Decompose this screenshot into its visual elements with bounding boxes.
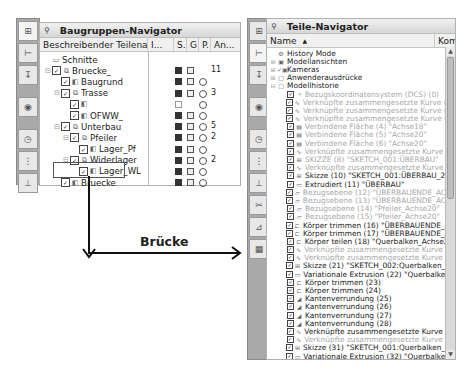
column-p[interactable]: P. — [199, 38, 211, 51]
feature-checkbox[interactable]: ✓ — [286, 271, 293, 278]
feature-checkbox[interactable]: ✓ — [287, 164, 294, 171]
feature-checkbox[interactable]: ✓ — [287, 213, 294, 220]
expander-icon[interactable]: ⊞ — [269, 66, 277, 73]
system-materials-icon[interactable]: ⋮ — [18, 151, 38, 171]
graphics-status-icon — [187, 179, 194, 186]
feature-checkbox[interactable]: ✓ — [286, 107, 293, 114]
feature-checkbox[interactable]: ✓ — [286, 222, 293, 229]
tree-row[interactable]: ▭Schnitte — [40, 54, 240, 65]
feature-checkbox[interactable]: ✓ — [286, 197, 292, 204]
visibility-checkbox[interactable]: ✓ — [61, 89, 70, 98]
visibility-checkbox[interactable]: ✓ — [79, 145, 88, 154]
tree-row[interactable]: ✓◧OFWW_ — [40, 110, 240, 121]
graphics-status-icon — [187, 157, 194, 164]
feature-type-icon: ∿ — [295, 336, 303, 343]
feature-checkbox[interactable]: ✓ — [287, 287, 294, 294]
part-navigator-icon[interactable]: ↧ — [18, 65, 38, 85]
feature-checkbox[interactable]: ✓ — [287, 246, 294, 253]
feature-type-icon: ▤ — [295, 131, 303, 138]
feature-checkbox[interactable]: ✓ — [287, 328, 294, 335]
tree-row[interactable]: ⊟✓⧉Bruecke_11 — [40, 65, 240, 76]
feature-checkbox[interactable]: ✓ — [287, 320, 294, 327]
feature-checkbox[interactable]: ✓ — [287, 91, 294, 98]
assembly-navigator-icon[interactable]: ⊞ — [18, 21, 38, 41]
feature-checkbox[interactable]: ✓ — [287, 172, 294, 179]
constraint-navigator-icon[interactable]: ⊢ — [18, 43, 38, 63]
feature-type-icon: ∿ — [294, 115, 301, 122]
scroll-up-arrow-icon[interactable]: ▲ — [446, 47, 455, 56]
expander-icon[interactable]: ⊞ — [269, 74, 277, 81]
tree-row[interactable]: ✓◧Bruecke — [40, 177, 240, 188]
feature-checkbox[interactable]: ✓ — [287, 181, 294, 188]
visibility-checkbox[interactable]: ✓ — [70, 100, 79, 109]
tree-item-label: Schnitte — [62, 55, 98, 65]
column-s[interactable]: S. — [174, 38, 187, 51]
part-navigator-panel: ⚲ Teile-Navigator Name ▲ Kom ⚙History Mo… — [266, 18, 456, 360]
feature-checkbox[interactable]: ✓ — [286, 262, 293, 269]
feature-checkbox[interactable]: ✓ — [287, 336, 294, 343]
visibility-checkbox[interactable]: ✓ — [52, 66, 61, 75]
visibility-checkbox[interactable]: ✓ — [61, 122, 70, 131]
reuse-library-icon[interactable]: ◉ — [18, 97, 38, 117]
visibility-checkbox[interactable]: ✓ — [70, 111, 79, 120]
expander-icon[interactable]: ⊟ — [269, 82, 277, 89]
tree-row[interactable]: ✓◧Baugrund — [40, 76, 240, 87]
position-status-icon — [199, 134, 207, 142]
save-status-icon — [175, 101, 182, 108]
arrow-horizontal-line — [88, 252, 240, 254]
vertical-scrollbar[interactable]: ▲ ▼ — [445, 47, 455, 359]
scroll-down-arrow-icon[interactable]: ▼ — [446, 350, 455, 359]
visibility-checkbox[interactable]: ✓ — [61, 178, 70, 187]
feature-checkbox[interactable]: ✓ — [287, 131, 294, 138]
feature-checkbox[interactable]: ✓ — [286, 99, 292, 106]
feature-checkbox[interactable]: ✓ — [287, 295, 294, 302]
expander-icon[interactable]: ⊟ — [44, 67, 52, 75]
feature-checkbox[interactable]: ✓ — [287, 238, 294, 245]
assembly-icon: ⧉ — [71, 89, 79, 97]
history-icon[interactable]: ◷ — [18, 129, 38, 149]
part-icon: ◧ — [80, 112, 88, 120]
roles-icon[interactable]: ⊥ — [18, 173, 38, 193]
feature-type-icon: ⊞ — [294, 344, 301, 351]
expander-icon[interactable]: ⊟ — [53, 89, 61, 97]
pin-icon[interactable]: ⚲ — [44, 26, 50, 35]
column-g[interactable]: G — [187, 38, 199, 51]
feature-checkbox[interactable]: ✓ — [287, 205, 294, 212]
feature-checkbox[interactable]: ✓ — [287, 148, 294, 155]
feature-type-icon: ▱ — [294, 197, 301, 204]
feature-checkbox[interactable]: ✓ — [286, 115, 293, 122]
feature-checkbox[interactable]: ✓ — [286, 353, 293, 360]
tree-item-label: Baugrund — [81, 77, 123, 87]
feature-checkbox[interactable]: ✓ — [287, 123, 294, 130]
column-an[interactable]: An... — [211, 38, 240, 51]
scroll-thumb[interactable] — [447, 57, 454, 199]
feature-checkbox[interactable]: ✓ — [286, 344, 293, 351]
column-i[interactable]: I... — [148, 38, 174, 51]
feature-checkbox[interactable]: ✓ — [287, 312, 294, 319]
feature-checkbox[interactable]: ✓ — [287, 140, 294, 147]
feature-checkbox[interactable]: ✓ — [287, 254, 294, 261]
column-name[interactable]: Name ▲ — [267, 34, 435, 47]
tree-item-label: Lager_Pf — [99, 144, 136, 154]
tree-row[interactable]: ✓◧Lager_Pf — [40, 144, 240, 155]
column-kom[interactable]: Kom — [435, 34, 455, 47]
count-value: 11 — [211, 65, 221, 74]
feature-checkbox[interactable]: ✓ — [286, 230, 293, 237]
expander-icon[interactable]: ⊟ — [62, 134, 70, 142]
feature-type-icon: ∿ — [295, 246, 303, 253]
pin-icon[interactable]: ⚲ — [271, 22, 277, 31]
expander-icon[interactable]: ⊟ — [53, 123, 61, 131]
expander-icon[interactable]: ⊞ — [269, 58, 277, 65]
tree-row[interactable]: ⊟✓⧉Pfeiler2 — [40, 132, 240, 143]
tree-row[interactable]: ⊟✓⧉Unterbau5 — [40, 121, 240, 132]
feature-checkbox[interactable]: ✓ — [287, 279, 294, 286]
visibility-checkbox[interactable]: ✓ — [70, 133, 79, 142]
column-description[interactable]: Beschreibender Teilename — [40, 38, 148, 51]
tree-row[interactable]: ⊟✓⧉Trasse3 — [40, 88, 240, 99]
visibility-checkbox[interactable]: ✓ — [61, 77, 70, 86]
history-row[interactable]: ✓▭Variationale Extrusion (32) "Querbalke… — [267, 352, 455, 360]
feature-checkbox[interactable]: ✓ — [287, 156, 294, 163]
feature-checkbox[interactable]: ✓ — [287, 303, 294, 310]
feature-checkbox[interactable]: ✓ — [286, 189, 292, 196]
tree-row[interactable]: ✓◧ — [40, 99, 240, 110]
